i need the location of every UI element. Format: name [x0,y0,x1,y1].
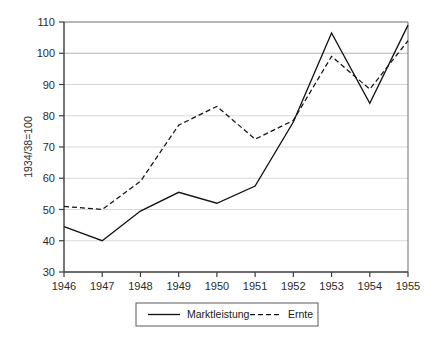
y-tick-label-30: 30 [43,266,55,278]
x-tick-label-1946: 1946 [52,280,76,292]
y-axis-title: 1934/38=100 [22,116,34,178]
y-tick-label-100: 100 [37,47,55,59]
y-tick-label-70: 70 [43,141,55,153]
x-tick-label-1949: 1949 [166,280,190,292]
line-chart: 30405060708090100110 1946194719481949195… [0,0,433,337]
y-axis-title-group: 1934/38=100 [22,116,34,178]
series-line-marktleistung [64,25,408,241]
x-tick-label-1948: 1948 [128,280,152,292]
y-tick-label-110: 110 [37,16,55,28]
legend-label-marktleistung: Marktleistung [187,308,250,320]
x-tick-label-1951: 1951 [243,280,267,292]
series-line-ernte [64,41,408,210]
y-tick-label-90: 90 [43,79,55,91]
y-tick-label-40: 40 [43,235,55,247]
x-tick-label-1950: 1950 [205,280,229,292]
x-axis-ticks: 1946194719481949195019511952195319541955 [52,272,420,292]
legend-label-ernte: Ernte [288,308,313,320]
y-tick-label-50: 50 [43,204,55,216]
chart-container: 30405060708090100110 1946194719481949195… [0,0,433,337]
y-tick-label-80: 80 [43,110,55,122]
y-tick-label-60: 60 [43,172,55,184]
x-tick-label-1952: 1952 [281,280,305,292]
chart-legend: Marktleistung Ernte [136,303,318,326]
gridlines [64,53,408,241]
x-tick-label-1953: 1953 [319,280,343,292]
y-axis-ticks: 30405060708090100110 [37,16,64,278]
data-series [64,25,408,241]
x-tick-label-1947: 1947 [90,280,114,292]
x-tick-label-1955: 1955 [396,280,420,292]
x-tick-label-1954: 1954 [358,280,382,292]
